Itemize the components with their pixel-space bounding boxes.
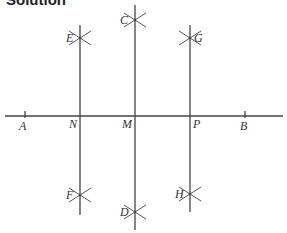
label-p: P: [192, 117, 201, 131]
label-m: M: [121, 117, 133, 131]
perpendicular-construction-diagram: ANMPBECGFDH: [0, 0, 287, 233]
label-c: C: [120, 13, 129, 27]
label-h: H: [174, 187, 185, 201]
label-a: A: [18, 119, 27, 133]
construction-lines: [5, 5, 283, 230]
label-d: D: [119, 205, 129, 219]
label-e: E: [65, 31, 74, 45]
label-g: G: [194, 31, 203, 45]
label-b: B: [240, 119, 248, 133]
label-n: N: [68, 117, 78, 131]
label-f: F: [65, 188, 74, 202]
